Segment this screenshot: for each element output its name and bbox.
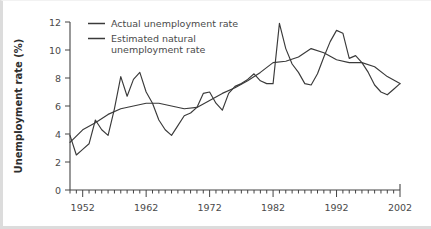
y-tick-label: 4: [55, 129, 61, 140]
x-tick-label: 1962: [134, 202, 158, 213]
series-line-natural: [70, 49, 400, 143]
x-tick-label: 1982: [261, 202, 285, 213]
legend-label-natural: Estimated natural: [111, 33, 196, 44]
y-axis-title: Unemployment rate (%): [13, 39, 24, 174]
y-tick-group: 024681012: [49, 17, 70, 196]
x-tick-label: 1992: [324, 202, 348, 213]
y-axis-title-group: Unemployment rate (%): [13, 39, 24, 174]
x-tick-label: 1972: [198, 202, 222, 213]
legend-label-actual: Actual unemployment rate: [111, 18, 238, 29]
y-tick-label: 12: [49, 17, 61, 28]
x-tick-label: 1952: [71, 202, 95, 213]
unemployment-rate-chart-figure: 024681012 195219621972198219922002 Unemp…: [0, 0, 431, 229]
legend-label-natural-line2: unemployment rate: [111, 44, 206, 55]
y-tick-label: 8: [55, 73, 61, 84]
x-tick-label: 2002: [388, 202, 412, 213]
chart-plot-area: 024681012 195219621972198219922002 Unemp…: [0, 0, 431, 229]
y-tick-label: 10: [49, 45, 61, 56]
y-tick-label: 2: [55, 157, 61, 168]
chart-legend: Actual unemployment rateEstimated natura…: [88, 18, 238, 55]
x-tick-group: 195219621972198219922002: [70, 190, 412, 213]
y-tick-label: 6: [55, 101, 61, 112]
y-tick-label: 0: [55, 185, 61, 196]
